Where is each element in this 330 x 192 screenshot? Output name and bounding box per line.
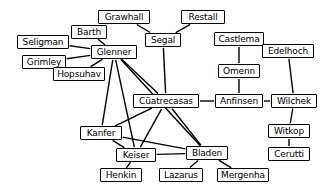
graph-node-cuatrecasas[interactable]: Cüatrecasas	[133, 94, 199, 108]
graph-node-grawhall[interactable]: Grawhall	[98, 10, 150, 24]
graph-node-edelhoch[interactable]: Edelhoch	[262, 44, 314, 58]
graph-node-restall[interactable]: Restall	[181, 10, 225, 24]
graph-node-seligman[interactable]: Seligman	[17, 35, 69, 49]
graph-node-mergenha[interactable]: Mergenha	[217, 168, 269, 182]
node-layer: GrawhallRestallBarthSegalCastlemaSeligma…	[0, 0, 330, 192]
graph-node-segal[interactable]: Segal	[145, 33, 181, 47]
network-diagram: GrawhallRestallBarthSegalCastlemaSeligma…	[0, 0, 330, 192]
graph-node-hopsuhav[interactable]: Hopsuhav	[53, 67, 105, 81]
graph-node-anfinsen[interactable]: Anfinsen	[215, 94, 263, 108]
graph-node-glenner[interactable]: Glenner	[91, 45, 137, 59]
graph-node-keiser[interactable]: Keiser	[116, 148, 156, 162]
graph-node-bladen[interactable]: Bladen	[186, 146, 228, 160]
graph-node-henkin[interactable]: Henkin	[100, 168, 142, 182]
graph-node-wilchek[interactable]: Wilchek	[271, 94, 317, 108]
graph-node-cerutti[interactable]: Cerutti	[268, 147, 310, 161]
graph-node-castlema[interactable]: Castlema	[214, 32, 264, 46]
graph-node-witkop[interactable]: Witkop	[268, 124, 310, 138]
graph-node-omenn[interactable]: Omenn	[218, 64, 260, 78]
graph-node-lazarus[interactable]: Lazarus	[159, 168, 203, 182]
graph-node-kanfer[interactable]: Kanfer	[80, 126, 122, 140]
graph-node-barth[interactable]: Barth	[71, 25, 107, 39]
